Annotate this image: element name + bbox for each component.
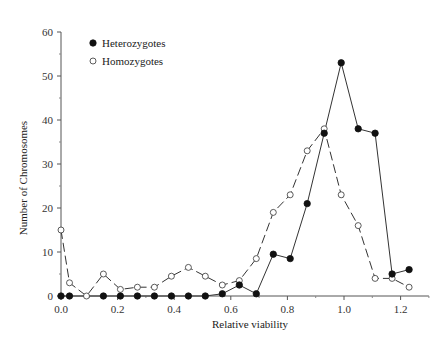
y-tick-label: 50 xyxy=(42,70,54,82)
homozygotes-point-marker xyxy=(270,209,276,215)
plot-lines xyxy=(61,63,409,296)
x-tick-label: 0.6 xyxy=(224,303,238,315)
heterozygotes-point-marker xyxy=(151,293,157,299)
legend-homozygotes-marker-icon xyxy=(90,58,96,64)
x-axis-label: Relative viability xyxy=(212,318,289,330)
heterozygotes-point-marker xyxy=(185,293,191,299)
heterozygotes-point-marker xyxy=(66,293,72,299)
heterozygotes-point-marker xyxy=(202,293,208,299)
homozygotes-point-marker xyxy=(58,227,64,233)
heterozygotes-point-marker xyxy=(372,130,378,136)
heterozygotes-point-marker xyxy=(236,282,242,288)
homozygotes-point-marker xyxy=(202,273,208,279)
heterozygotes-point-marker xyxy=(338,60,344,66)
homozygotes-point-marker xyxy=(100,271,106,277)
heterozygotes-point-marker xyxy=(219,291,225,297)
x-tick-label: 0.2 xyxy=(111,303,125,315)
y-tick-label: 60 xyxy=(42,26,54,38)
heterozygotes-point-marker xyxy=(253,291,259,297)
legend-homozygotes-label: Homozygotes xyxy=(102,55,163,67)
heterozygotes-point-marker xyxy=(321,130,327,136)
x-tick-label: 0.4 xyxy=(167,303,181,315)
homozygotes-point-marker xyxy=(84,293,90,299)
heterozygotes-point-marker xyxy=(406,266,412,272)
y-tick-label: 20 xyxy=(42,202,54,214)
x-tick-label: 0.8 xyxy=(281,303,295,315)
heterozygotes-line xyxy=(61,63,409,296)
x-axis: 0.00.20.40.60.81.01.2 xyxy=(54,296,429,315)
heterozygotes-point-marker xyxy=(134,293,140,299)
plot-markers xyxy=(58,60,413,300)
heterozygotes-point-marker xyxy=(168,293,174,299)
x-tick-label: 1.0 xyxy=(337,303,351,315)
homozygotes-point-marker xyxy=(372,275,378,281)
homozygotes-point-marker xyxy=(355,223,361,229)
homozygotes-point-marker xyxy=(406,284,412,290)
homozygotes-point-marker xyxy=(253,256,259,262)
x-tick-label: 0.0 xyxy=(54,303,68,315)
homozygotes-point-marker xyxy=(168,273,174,279)
homozygotes-point-marker xyxy=(67,280,73,286)
y-tick-label: 0 xyxy=(48,290,54,302)
legend-heterozygotes-label: Heterozygotes xyxy=(102,37,166,49)
y-tick-label: 30 xyxy=(42,158,54,170)
y-axis: 0102030405060 xyxy=(42,26,61,302)
y-tick-label: 40 xyxy=(42,114,54,126)
heterozygotes-point-marker xyxy=(58,293,64,299)
heterozygotes-point-marker xyxy=(270,251,276,257)
heterozygotes-point-marker xyxy=(100,293,106,299)
homozygotes-line xyxy=(61,129,409,296)
y-tick-label: 10 xyxy=(42,246,54,258)
heterozygotes-point-marker xyxy=(287,255,293,261)
x-tick-label: 1.2 xyxy=(394,303,408,315)
homozygotes-point-marker xyxy=(338,192,344,198)
heterozygotes-point-marker xyxy=(389,271,395,277)
line-chart: 0102030405060 0.00.20.40.60.81.01.2 Rela… xyxy=(0,0,444,344)
homozygotes-point-marker xyxy=(134,284,140,290)
homozygotes-point-marker xyxy=(117,286,123,292)
homozygotes-point-marker xyxy=(287,192,293,198)
homozygotes-point-marker xyxy=(219,282,225,288)
heterozygotes-point-marker xyxy=(117,293,123,299)
heterozygotes-point-marker xyxy=(355,126,361,132)
legend: Heterozygotes Homozygotes xyxy=(90,37,166,67)
homozygotes-point-marker xyxy=(185,264,191,270)
y-axis-label: Number of Chromosomes xyxy=(17,121,29,235)
legend-heterozygotes-marker-icon xyxy=(90,40,96,46)
heterozygotes-point-marker xyxy=(304,200,310,206)
homozygotes-point-marker xyxy=(151,284,157,290)
homozygotes-point-marker xyxy=(304,148,310,154)
